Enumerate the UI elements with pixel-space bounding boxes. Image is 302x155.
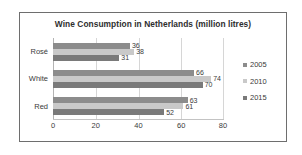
bar-value-rose-2015: 31 (121, 54, 129, 61)
bar-groups: 36 38 31 66 (53, 38, 224, 120)
legend-item-2005[interactable]: 2005 (243, 61, 267, 69)
x-tick-0: 0 (51, 121, 55, 130)
y-axis-label-rose: Rosé (20, 41, 51, 63)
legend-label-2010: 2010 (250, 78, 267, 86)
chart-legend: 2005 2010 2015 (243, 61, 267, 102)
x-axis-tick-labels: 0 20 40 60 80 (53, 121, 224, 133)
legend-label-2015: 2015 (250, 94, 267, 102)
legend-item-2010[interactable]: 2010 (243, 78, 267, 86)
y-axis-label-white: White (20, 68, 51, 90)
legend-swatch-icon-2010 (243, 79, 247, 83)
bar-value-white-2015: 70 (205, 81, 213, 88)
bar-row-red-2015: 52 (53, 109, 224, 115)
y-axis-label-red: Red (20, 95, 51, 117)
chart-screenshot: Wine Consumption in Netherlands (million… (0, 0, 302, 155)
bar-red-2015[interactable] (53, 109, 164, 115)
legend-swatch-icon-2005 (243, 63, 247, 67)
bar-group-rose: 36 38 31 (53, 41, 224, 63)
y-axis-category-labels: Rosé White Red (20, 38, 51, 120)
x-tick-80: 80 (219, 121, 227, 130)
chart-frame: Wine Consumption in Netherlands (million… (19, 12, 287, 142)
bar-row-rose-2015: 31 (53, 55, 224, 61)
legend-label-2005: 2005 (250, 61, 267, 69)
x-tick-20: 20 (92, 121, 100, 130)
bar-row-white-2015: 70 (53, 82, 224, 88)
x-axis-line (53, 119, 224, 120)
legend-item-2015[interactable]: 2015 (243, 94, 267, 102)
x-tick-40: 40 (134, 121, 142, 130)
bar-group-white: 66 74 70 (53, 68, 224, 90)
bar-group-red: 63 61 52 (53, 95, 224, 117)
bar-rose-2015[interactable] (53, 55, 119, 61)
plot-area: 36 38 31 66 (53, 38, 224, 120)
legend-swatch-icon-2015 (243, 96, 247, 100)
bar-white-2015[interactable] (53, 82, 203, 88)
bar-value-red-2015: 52 (166, 109, 174, 116)
x-tick-60: 60 (177, 121, 185, 130)
chart-title: Wine Consumption in Netherlands (million… (20, 19, 286, 29)
